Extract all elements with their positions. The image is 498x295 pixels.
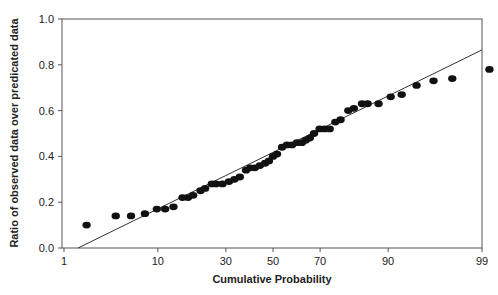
plot-frame	[62, 19, 482, 248]
x-axis: 1103050709099	[61, 248, 488, 267]
data-point	[325, 126, 333, 133]
data-point	[189, 192, 197, 199]
x-tick-label: 70	[314, 255, 326, 267]
data-point	[374, 100, 382, 107]
y-tick-label: 0.2	[39, 196, 54, 208]
data-point	[236, 174, 244, 181]
x-axis-label: Cumulative Probability	[212, 273, 332, 285]
x-tick-label: 99	[476, 255, 488, 267]
data-point	[336, 116, 344, 123]
y-axis-label: Ratio of observed data over predicated d…	[8, 18, 20, 248]
data-point	[161, 206, 169, 213]
data-point	[485, 66, 493, 73]
probability-plot: 0.00.20.40.60.81.0 1103050709099 Cumulat…	[0, 0, 498, 295]
data-point	[153, 206, 161, 213]
data-point	[387, 93, 395, 100]
x-tick-label: 10	[152, 255, 164, 267]
data-point	[201, 185, 209, 192]
y-tick-label: 1.0	[39, 13, 54, 25]
data-point	[169, 203, 177, 210]
y-tick-label: 0.0	[39, 242, 54, 254]
data-point	[448, 75, 456, 82]
data-point	[273, 151, 281, 158]
data-point	[429, 77, 437, 84]
data-point	[82, 222, 90, 229]
x-tick-label: 30	[220, 255, 232, 267]
y-tick-label: 0.4	[39, 150, 54, 162]
data-point	[141, 210, 149, 217]
data-point	[127, 213, 135, 220]
x-tick-label: 90	[382, 255, 394, 267]
data-point	[350, 105, 358, 112]
data-point	[397, 91, 405, 98]
data-point	[112, 213, 120, 220]
data-point	[363, 100, 371, 107]
y-tick-label: 0.8	[39, 59, 54, 71]
data-point	[412, 82, 420, 89]
x-tick-label: 50	[267, 255, 279, 267]
axes	[62, 19, 482, 248]
data-points	[82, 66, 493, 229]
y-tick-label: 0.6	[39, 105, 54, 117]
y-axis: 0.00.20.40.60.81.0	[39, 13, 62, 254]
x-tick-label: 1	[61, 255, 67, 267]
